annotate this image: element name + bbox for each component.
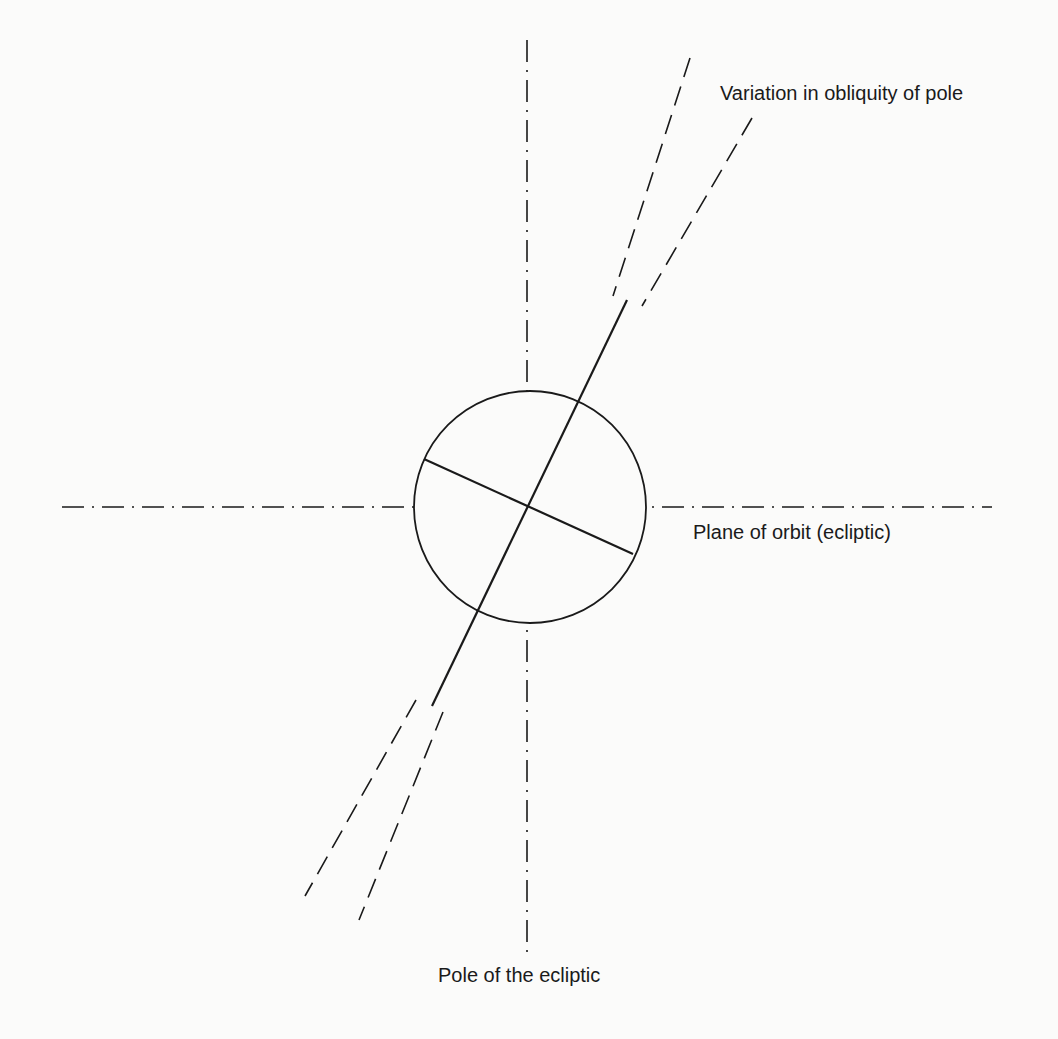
obliquity-label: Variation in obliquity of pole: [720, 82, 963, 105]
obliquity-limit-top-right: [642, 118, 752, 306]
obliquity-limit-top-left: [613, 58, 690, 296]
ecliptic-pole-label: Pole of the ecliptic: [438, 964, 600, 987]
orbit-plane-label: Plane of orbit (ecliptic): [693, 521, 891, 544]
ecliptic-diagram: [0, 0, 1058, 1039]
obliquity-limit-bottom-right: [359, 712, 443, 920]
obliquity-limit-bottom-left: [305, 700, 416, 896]
